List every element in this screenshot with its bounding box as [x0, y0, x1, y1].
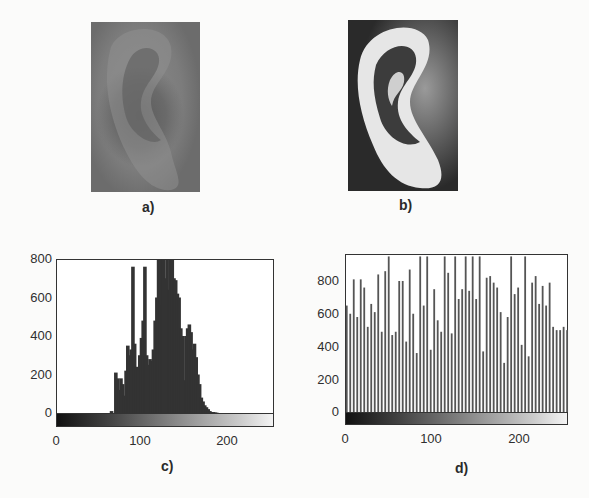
histogram-bar — [440, 332, 442, 412]
histogram-bar — [447, 273, 449, 412]
histogram-bar — [521, 345, 523, 412]
histogram-bar — [402, 281, 404, 412]
histogram-bar — [381, 332, 383, 412]
histogram-bar — [489, 276, 491, 412]
histogram-bar — [405, 342, 407, 412]
histogram-bar — [395, 332, 397, 412]
histogram-bar — [423, 306, 425, 412]
histogram-bar — [535, 276, 537, 412]
xtick-d-200: 200 — [499, 431, 539, 446]
histogram-bar — [468, 291, 470, 412]
histogram-bar — [486, 278, 488, 412]
histogram-bar — [433, 289, 435, 412]
histogram-bar — [493, 283, 495, 412]
histogram-bar — [503, 363, 505, 412]
histogram-bar — [479, 256, 481, 412]
histogram-bar — [514, 294, 516, 412]
histogram-bar — [496, 288, 498, 412]
histogram-bar — [545, 306, 547, 412]
histogram-bar — [398, 281, 400, 412]
colorbar-d — [346, 412, 567, 424]
histogram-bar — [384, 271, 386, 412]
histogram-bar — [559, 330, 561, 412]
histogram-bar — [510, 256, 512, 412]
histogram-bar — [458, 299, 460, 412]
ytick-d-0: 0 — [305, 404, 339, 419]
histogram-bar — [346, 306, 348, 412]
ytick-d-200: 200 — [305, 372, 339, 387]
xtick-d-100: 100 — [411, 431, 451, 446]
histogram-bar — [353, 279, 355, 412]
histogram-bar — [451, 333, 453, 412]
histogram-bar — [482, 351, 484, 412]
histogram-bar — [538, 304, 540, 412]
histogram-bar — [391, 335, 393, 412]
histogram-bar — [465, 256, 467, 412]
ytick-d-400: 400 — [305, 339, 339, 354]
histogram-bar — [549, 283, 551, 412]
ytick-d-800: 800 — [305, 273, 339, 288]
histogram-bar — [500, 312, 502, 412]
xtick-d-0: 0 — [325, 431, 365, 446]
histogram-bar — [472, 256, 474, 412]
histogram-bar — [528, 356, 530, 412]
histogram-bar — [374, 312, 376, 412]
histogram-bar — [444, 256, 446, 412]
histogram-bar — [542, 286, 544, 412]
histogram-bar — [552, 327, 554, 412]
histogram-bar — [430, 350, 432, 412]
histogram-bar — [349, 314, 351, 412]
histogram-bar — [437, 320, 439, 412]
histogram-bar — [412, 314, 414, 412]
histogram-bar — [419, 256, 421, 412]
histogram-bar — [461, 289, 463, 412]
histogram-bar — [556, 330, 558, 412]
histogram-bar — [367, 327, 369, 412]
histogram-bar — [454, 256, 456, 412]
histogram-bar — [517, 288, 519, 412]
histogram-bar — [416, 353, 418, 412]
caption-d: d) — [455, 460, 468, 476]
ytick-d-600: 600 — [305, 306, 339, 321]
histogram-bar — [426, 256, 428, 412]
histogram-bar — [524, 256, 526, 412]
histogram-bar — [388, 256, 390, 412]
histogram-bar — [507, 317, 509, 412]
histogram-bar — [531, 283, 533, 412]
histogram-bar — [360, 279, 362, 412]
histogram-bar — [475, 299, 477, 412]
histogram-bar — [566, 330, 568, 412]
histogram-bar — [377, 274, 379, 412]
histogram-bar — [370, 304, 372, 412]
histogram-bar — [409, 270, 411, 412]
histogram-bar — [363, 288, 365, 412]
histogram-bar — [356, 317, 358, 412]
histogram-bar — [563, 327, 565, 412]
